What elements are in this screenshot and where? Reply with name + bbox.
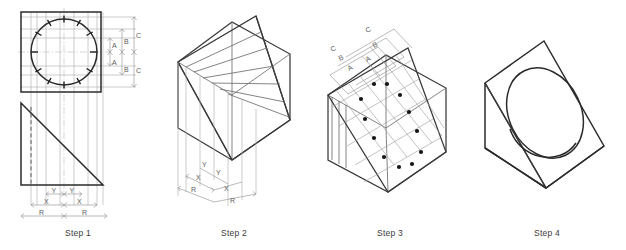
ordinate-dimension-stack: A A B B C C (329, 25, 412, 94)
step-1-drawing: A A B B C C (0, 0, 156, 228)
step-2-caption: Step 2 (156, 228, 312, 238)
dim-label-y-left: Y (202, 161, 207, 168)
grid-lines-direction-1 (336, 55, 444, 165)
dim-label-a-right: A (364, 54, 372, 63)
step-3-panel: A A B B C C Step 3 (312, 0, 468, 250)
vertical-dimension-stack: A A B B C C (107, 17, 141, 87)
step-3-drawing: A A B B C C (312, 0, 468, 228)
plotted-ellipse-points (359, 82, 423, 169)
dim-label-r-left: R (39, 209, 44, 216)
dim-label-r-right: R (230, 197, 235, 204)
step-4-drawing (468, 0, 626, 228)
step-2-panel: Y Y X X R R Step 2 (156, 0, 312, 250)
dim-label-a-upper: A (112, 42, 117, 49)
finished-wedge (485, 41, 604, 188)
dim-label-r-left: R (191, 186, 196, 193)
step-1-caption: Step 1 (0, 228, 156, 238)
dim-label-y-right: Y (70, 187, 75, 194)
dim-label-c-left: C (329, 44, 337, 53)
dim-label-c-lower: C (136, 67, 141, 74)
step-4-panel: Step 4 (468, 0, 626, 250)
dim-label-b-upper: B (124, 38, 129, 45)
dim-label-y-left: Y (52, 187, 57, 194)
front-view-triangle (21, 103, 103, 185)
dim-label-a-lower: A (112, 59, 117, 66)
dim-label-r-right: R (82, 209, 87, 216)
dim-label-c-upper: C (136, 32, 141, 39)
dim-label-b-right: B (371, 40, 379, 49)
dim-label-x-left: X (196, 174, 201, 181)
dim-label-c-right: C (364, 25, 372, 34)
step-3-caption: Step 3 (312, 228, 468, 238)
elliptical-hole (492, 55, 598, 171)
vertical-projection-lines (31, 12, 103, 205)
step-4-caption: Step 4 (468, 228, 626, 238)
dim-label-y-right: Y (216, 169, 221, 176)
isometric-dimension-stack: Y Y X X R R (178, 161, 256, 204)
step-2-drawing: Y Y X X R R (156, 0, 312, 228)
dim-label-x-left: X (44, 198, 49, 205)
step-1-panel: A A B B C C (0, 0, 156, 250)
dim-label-x-right: X (77, 198, 82, 205)
dim-label-x-right: X (224, 185, 229, 192)
dim-label-a-left: A (346, 63, 354, 72)
dim-label-b-lower: B (124, 66, 129, 73)
isometric-cube (178, 22, 290, 160)
dim-label-b-left: B (337, 53, 345, 62)
